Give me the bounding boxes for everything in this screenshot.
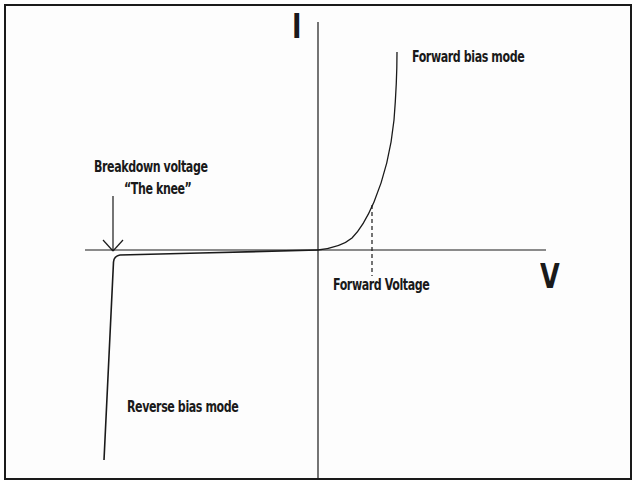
x-axis-label: V <box>540 256 559 296</box>
reverse-bias-label: Reverse bias mode <box>127 398 238 416</box>
breakdown-voltage-label: Breakdown voltage <box>94 158 208 176</box>
forward-voltage-label: Forward Voltage <box>333 276 429 294</box>
breakdown-arrow-icon <box>103 196 123 251</box>
y-axis-label: I <box>292 6 301 46</box>
iv-curve-plot <box>0 0 636 493</box>
reverse-bias-curve <box>104 250 318 460</box>
forward-bias-label: Forward bias mode <box>412 48 524 66</box>
forward-bias-curve <box>318 52 397 250</box>
knee-label: “The knee” <box>124 180 191 198</box>
